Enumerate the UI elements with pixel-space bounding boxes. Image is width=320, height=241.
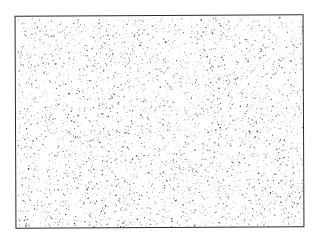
stipple-frame [15,14,305,228]
stipple-dots [16,15,306,229]
